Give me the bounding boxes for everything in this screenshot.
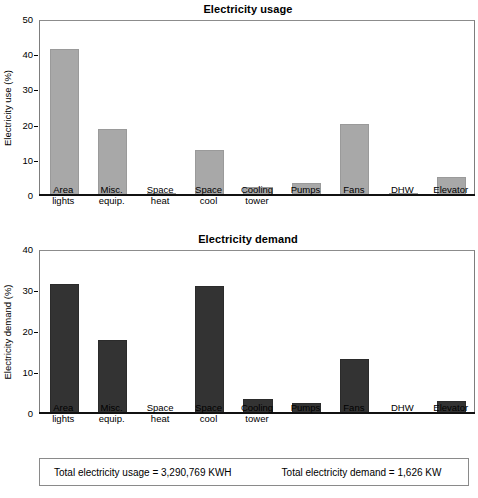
x-tick-label: Misc. equip. bbox=[87, 184, 135, 206]
plot-frame-usage bbox=[39, 20, 475, 196]
chart-panel-electricity-demand: Electricity demand Electricity demand (%… bbox=[0, 232, 478, 414]
y-axis-ticks-demand: 010203040 bbox=[14, 250, 38, 414]
y-tick-mark bbox=[34, 291, 38, 292]
x-tick-label: DHW bbox=[378, 184, 426, 195]
bar bbox=[50, 49, 79, 195]
y-tick-mark bbox=[34, 126, 38, 127]
electricity-figure: Electricity usage Electricity use (%) 01… bbox=[0, 0, 478, 498]
x-tick-label: Fans bbox=[330, 402, 378, 413]
plot-area-demand: Electricity demand (%) 010203040 bbox=[0, 250, 478, 414]
y-tick-mark bbox=[34, 373, 38, 374]
y-tick-mark bbox=[34, 55, 38, 56]
x-tick-label: Elevator bbox=[427, 184, 475, 195]
y-tick-label: 0 bbox=[28, 409, 33, 419]
y-tick-label: 10 bbox=[22, 156, 33, 166]
x-tick-label: Space cool bbox=[184, 402, 232, 424]
y-axis-label-usage: Electricity use (%) bbox=[0, 20, 14, 196]
y-tick-label: 40 bbox=[22, 245, 33, 255]
x-tick-label: Elevator bbox=[427, 402, 475, 413]
y-tick-label: 20 bbox=[22, 121, 33, 131]
y-tick-label: 30 bbox=[22, 86, 33, 96]
x-tick-label: Space heat bbox=[136, 184, 184, 206]
y-axis-ticks-usage: 01020304050 bbox=[14, 20, 38, 196]
totals-summary-box: Total electricity usage = 3,290,769 KWH … bbox=[39, 458, 469, 486]
bar bbox=[195, 286, 224, 413]
bar-series-usage bbox=[40, 21, 474, 195]
chart-title-demand: Electricity demand bbox=[0, 232, 478, 246]
chart-title-usage: Electricity usage bbox=[0, 2, 478, 16]
x-tick-label: Cooling tower bbox=[233, 402, 281, 424]
y-tick-label: 10 bbox=[22, 368, 33, 378]
chart-panel-electricity-usage: Electricity usage Electricity use (%) 01… bbox=[0, 2, 478, 196]
x-tick-label: Pumps bbox=[281, 184, 329, 195]
y-tick-label: 30 bbox=[22, 286, 33, 296]
bar bbox=[50, 284, 79, 413]
total-electricity-demand-text: Total electricity demand = 1,626 KW bbox=[282, 467, 442, 478]
x-tick-label: Cooling tower bbox=[233, 184, 281, 206]
x-tick-label: Area lights bbox=[39, 184, 87, 206]
plot-frame-demand bbox=[39, 250, 475, 414]
y-tick-label: 0 bbox=[28, 191, 33, 201]
y-tick-mark bbox=[34, 332, 38, 333]
x-tick-label: Space cool bbox=[184, 184, 232, 206]
y-tick-mark bbox=[34, 90, 38, 91]
y-tick-mark bbox=[34, 161, 38, 162]
x-tick-label: Area lights bbox=[39, 402, 87, 424]
x-tick-label: Misc. equip. bbox=[87, 402, 135, 424]
bar-series-demand bbox=[40, 251, 474, 413]
y-tick-label: 20 bbox=[22, 327, 33, 337]
total-electricity-usage-text: Total electricity usage = 3,290,769 KWH bbox=[54, 467, 232, 478]
x-tick-label: Fans bbox=[330, 184, 378, 195]
plot-area-usage: Electricity use (%) 01020304050 bbox=[0, 20, 478, 196]
x-tick-label: DHW bbox=[378, 402, 426, 413]
y-tick-label: 50 bbox=[22, 15, 33, 25]
x-tick-label: Space heat bbox=[136, 402, 184, 424]
y-axis-label-demand: Electricity demand (%) bbox=[0, 250, 14, 414]
x-tick-label: Pumps bbox=[281, 402, 329, 413]
y-tick-label: 40 bbox=[22, 50, 33, 60]
